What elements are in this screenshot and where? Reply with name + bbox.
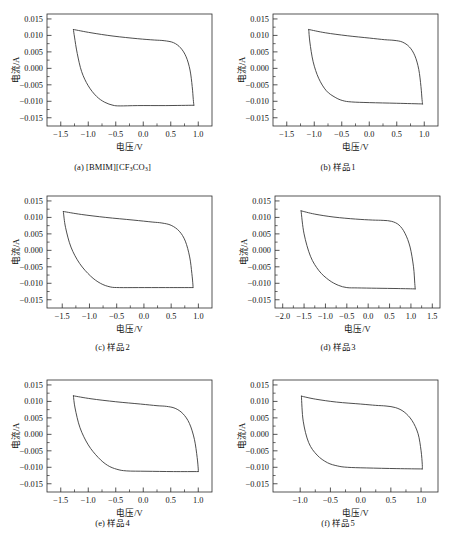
- x-ticklabel-d-4: 0.0: [363, 312, 373, 321]
- x-axis-title-b: 电压/V: [342, 141, 369, 152]
- x-ticklabel-d-1: −1.5: [297, 312, 312, 321]
- y-ticklabel-a-5: −0.010: [20, 97, 43, 106]
- cv-curve-upper-c: [63, 211, 193, 287]
- y-ticklabel-f-4: −0.005: [246, 447, 269, 456]
- x-ticklabel-b-1: −1.0: [307, 130, 322, 139]
- panel-a-caption: (a) [BMIM][CF3CO3]: [0, 162, 225, 172]
- x-ticklabel-c-2: −0.5: [109, 312, 124, 321]
- plot-frame-f: [273, 380, 438, 492]
- cv-curve-lower-d: [301, 211, 415, 289]
- y-ticklabel-b-4: −0.005: [246, 81, 269, 90]
- cv-curve-upper-b: [309, 29, 423, 103]
- y-ticklabel-a-3: 0.000: [24, 64, 43, 73]
- x-ticklabel-d-3: −0.5: [339, 312, 354, 321]
- y-ticklabel-f-6: −0.015: [246, 480, 269, 489]
- y-axis-title-c: 电流/A: [10, 238, 21, 265]
- cv-curve-lower-c: [63, 211, 193, 287]
- cv-curve-lower-f: [301, 396, 422, 469]
- x-ticklabel-c-3: 0.0: [139, 312, 149, 321]
- x-ticklabel-b-2: −0.5: [334, 130, 349, 139]
- x-ticklabel-b-3: 0.0: [364, 130, 374, 139]
- y-ticklabel-d-3: 0.000: [252, 246, 271, 255]
- y-ticklabel-d-4: −0.005: [248, 263, 271, 272]
- x-ticklabel-b-4: 0.5: [392, 130, 402, 139]
- y-ticklabel-f-2: 0.005: [250, 414, 269, 423]
- panel-d-plot: −2.0−1.5−1.0−0.50.00.51.01.50.0150.0100.…: [225, 180, 451, 362]
- y-ticklabel-c-2: 0.005: [24, 230, 43, 239]
- y-ticklabel-f-3: 0.000: [250, 430, 269, 439]
- x-ticklabel-c-4: 0.5: [166, 312, 176, 321]
- panel-b-caption: (b) 样品1: [225, 160, 451, 172]
- panel-d: −2.0−1.5−1.0−0.50.00.51.01.50.0150.0100.…: [225, 180, 451, 362]
- x-ticklabel-c-1: −1.0: [82, 312, 97, 321]
- x-ticklabel-a-1: −1.0: [81, 130, 96, 139]
- y-ticklabel-b-2: 0.005: [250, 48, 269, 57]
- y-axis-title-e: 电流/A: [10, 422, 21, 449]
- y-ticklabel-b-3: 0.000: [250, 64, 269, 73]
- y-ticklabel-c-6: −0.015: [20, 296, 43, 305]
- x-axis-title-d: 电压/V: [344, 323, 371, 334]
- y-ticklabel-a-2: 0.005: [24, 48, 43, 57]
- y-ticklabel-e-4: −0.005: [20, 447, 43, 456]
- y-ticklabel-e-1: 0.010: [24, 397, 43, 406]
- panel-e: −1.5−1.0−0.50.00.51.00.0150.0100.0050.00…: [0, 362, 225, 550]
- y-ticklabel-d-0: 0.015: [252, 197, 271, 206]
- panel-e-caption: (e) 样品4: [0, 516, 225, 528]
- x-ticklabel-d-0: −2.0: [275, 312, 290, 321]
- x-ticklabel-f-0: −1.0: [293, 496, 308, 505]
- panel-f: −1.0−0.50.00.51.00.0150.0100.0050.000−0.…: [225, 362, 451, 550]
- plot-frame-b: [273, 14, 438, 126]
- x-ticklabel-f-3: 0.5: [386, 496, 396, 505]
- figure-bottom-caption: [0, 544, 451, 550]
- y-axis-title-a: 电流/A: [10, 56, 21, 83]
- y-axis-title-f: 电流/A: [236, 422, 247, 449]
- y-ticklabel-c-5: −0.010: [20, 279, 43, 288]
- panel-b: −1.5−1.0−0.50.00.51.00.0150.0100.0050.00…: [225, 0, 451, 180]
- y-ticklabel-a-6: −0.015: [20, 114, 43, 123]
- x-ticklabel-d-5: 0.5: [384, 312, 394, 321]
- panel-grid: −1.5−1.0−0.50.00.51.00.0150.0100.0050.00…: [0, 0, 451, 550]
- x-ticklabel-d-7: 1.5: [427, 312, 437, 321]
- panel-f-caption: (f) 样品5: [225, 516, 451, 528]
- y-ticklabel-d-1: 0.010: [252, 213, 271, 222]
- x-axis-title-c: 电压/V: [116, 323, 143, 334]
- plot-frame-a: [47, 14, 212, 126]
- x-ticklabel-c-5: 1.0: [193, 312, 203, 321]
- x-ticklabel-e-1: −1.0: [81, 496, 96, 505]
- y-ticklabel-e-2: 0.005: [24, 414, 43, 423]
- x-ticklabel-a-3: 0.0: [138, 130, 148, 139]
- y-ticklabel-c-3: 0.000: [24, 246, 43, 255]
- y-ticklabel-b-6: −0.015: [246, 114, 269, 123]
- panel-b-plot: −1.5−1.0−0.50.00.51.00.0150.0100.0050.00…: [225, 0, 451, 180]
- cv-curve-upper-e: [73, 396, 198, 472]
- y-ticklabel-d-2: 0.005: [252, 230, 271, 239]
- cv-curve-lower-b: [309, 29, 423, 103]
- x-ticklabel-e-5: 1.0: [193, 496, 203, 505]
- y-ticklabel-c-1: 0.010: [24, 213, 43, 222]
- y-ticklabel-f-1: 0.010: [250, 397, 269, 406]
- panel-c-caption: (c) 样品2: [0, 340, 225, 352]
- y-axis-title-d: 电流/A: [238, 238, 249, 265]
- y-ticklabel-e-6: −0.015: [20, 480, 43, 489]
- y-ticklabel-e-5: −0.010: [20, 463, 43, 472]
- y-ticklabel-c-4: −0.005: [20, 263, 43, 272]
- x-ticklabel-d-6: 1.0: [406, 312, 416, 321]
- cv-curve-upper-a: [73, 29, 193, 105]
- x-ticklabel-f-2: 0.0: [355, 496, 365, 505]
- y-axis-title-b: 电流/A: [236, 56, 247, 83]
- y-ticklabel-a-0: 0.015: [24, 15, 43, 24]
- x-ticklabel-e-4: 0.5: [166, 496, 176, 505]
- cv-curve-upper-d: [301, 211, 415, 289]
- x-axis-title-a: 电压/V: [116, 141, 143, 152]
- plot-frame-e: [47, 380, 212, 492]
- y-ticklabel-b-5: −0.010: [246, 97, 269, 106]
- x-ticklabel-c-0: −1.5: [55, 312, 70, 321]
- plot-frame-d: [275, 196, 440, 308]
- y-ticklabel-c-0: 0.015: [24, 197, 43, 206]
- y-ticklabel-b-0: 0.015: [250, 15, 269, 24]
- y-ticklabel-e-3: 0.000: [24, 430, 43, 439]
- y-ticklabel-a-1: 0.010: [24, 31, 43, 40]
- panel-c: −1.5−1.0−0.50.00.51.00.0150.0100.0050.00…: [0, 180, 225, 362]
- panel-a-plot: −1.5−1.0−0.50.00.51.00.0150.0100.0050.00…: [0, 0, 225, 180]
- y-ticklabel-e-0: 0.015: [24, 381, 43, 390]
